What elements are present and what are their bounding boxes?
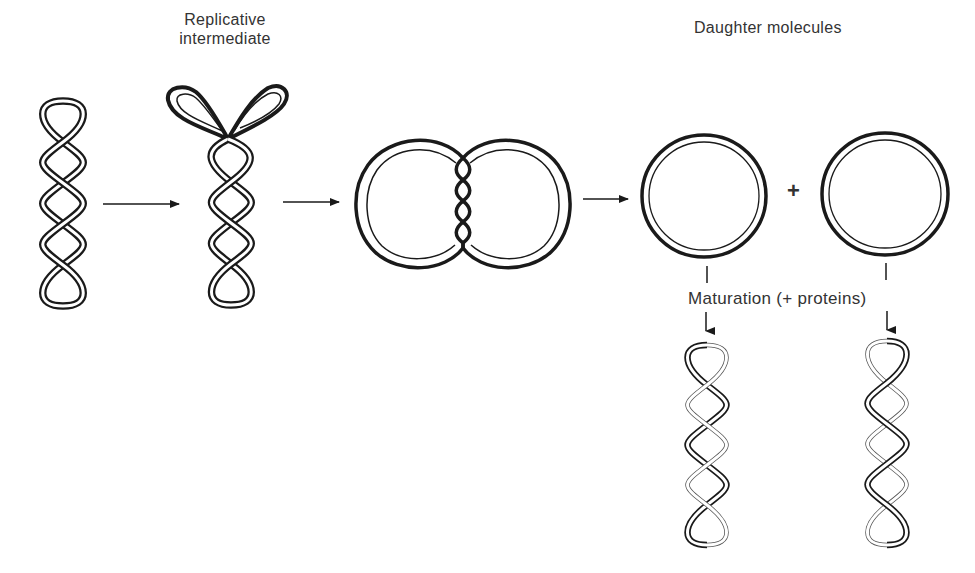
mature-daughter-1-icon [688,345,727,545]
catenated-circles-icon [356,140,570,267]
mature-daughter-2-icon [868,341,907,545]
replication-diagram [0,0,975,573]
parental-supercoil-icon [43,101,84,306]
replicative-intermediate-icon [168,86,287,305]
daughter-circle-1-icon [642,135,766,257]
daughter-circle-2-icon [822,133,948,255]
